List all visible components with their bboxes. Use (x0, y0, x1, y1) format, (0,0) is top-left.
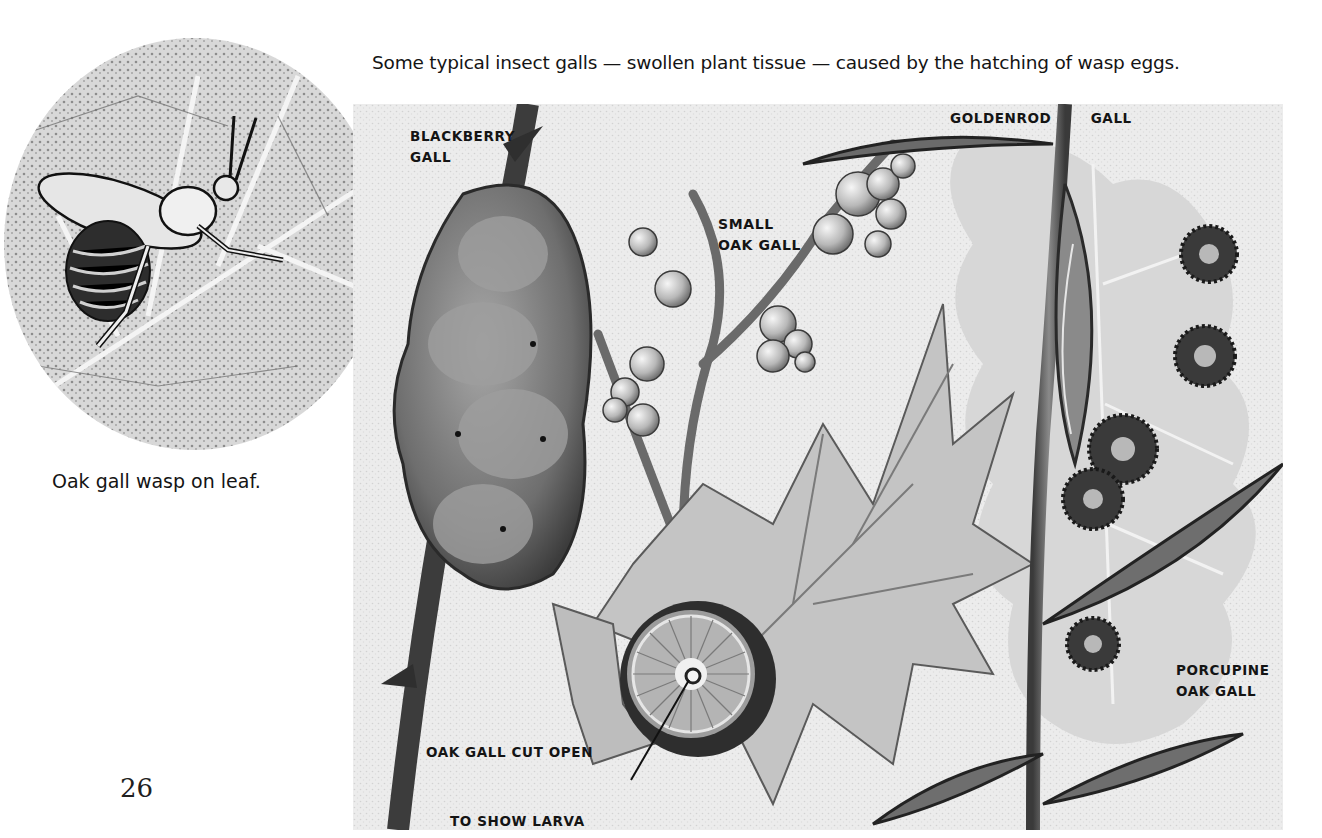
label-oak-gall-cut-open: OAK GALL CUT OPEN (426, 742, 593, 763)
wasp-figure-caption: Oak gall wasp on leaf. (52, 470, 261, 492)
label-to-show-larva: TO SHOW LARVA (450, 811, 585, 832)
figure-caption-top: Some typical insect galls — swollen plan… (372, 52, 1180, 73)
page-number: 26 (120, 773, 153, 803)
insect-galls-plate (353, 104, 1283, 830)
wasp-on-leaf-illustration (0, 36, 388, 452)
label-porcupine-oak-gall: PORCUPINE OAK GALL (1176, 660, 1269, 702)
label-goldenrod-gall: GOLDENROD GALL (950, 108, 1132, 129)
label-small-oak-gall: SMALL OAK GALL (718, 214, 801, 256)
label-blackberry-gall: BLACKBERRY GALL (410, 126, 515, 168)
